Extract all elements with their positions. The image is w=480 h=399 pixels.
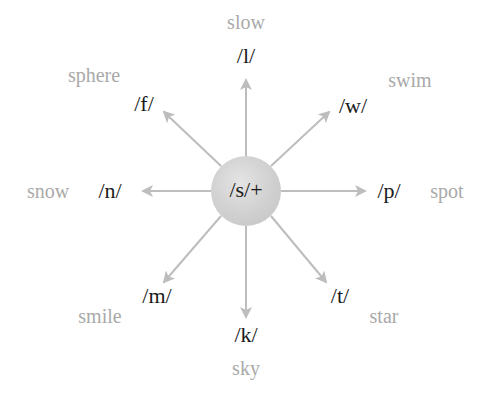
phoneme-n: /n/ bbox=[98, 180, 121, 202]
phoneme-m: /m/ bbox=[142, 285, 171, 307]
word-star: star bbox=[370, 306, 399, 326]
word-spot: spot bbox=[430, 181, 463, 201]
center-label: /s/+ bbox=[229, 177, 262, 203]
arrow-southeast bbox=[271, 216, 326, 282]
phoneme-k: /k/ bbox=[234, 324, 257, 346]
word-slow: slow bbox=[227, 12, 265, 32]
center-hub: /s/+ bbox=[211, 156, 281, 226]
word-swim: swim bbox=[388, 70, 431, 90]
arrow-southwest bbox=[164, 216, 221, 282]
phoneme-w: /w/ bbox=[339, 95, 367, 117]
word-snow: snow bbox=[27, 181, 69, 201]
word-smile: smile bbox=[78, 306, 121, 326]
phoneme-p: /p/ bbox=[377, 180, 400, 202]
word-sphere: sphere bbox=[68, 65, 120, 85]
word-sky: sky bbox=[232, 358, 260, 378]
s-blend-diagram: /s/+ slow /l/ swim /w/ /p/ spot /t/ star… bbox=[0, 0, 480, 399]
arrow-northwest bbox=[164, 112, 221, 166]
phoneme-f: /f/ bbox=[134, 93, 154, 115]
phoneme-t: /t/ bbox=[331, 285, 349, 307]
phoneme-l: /l/ bbox=[237, 45, 255, 67]
arrow-northeast bbox=[271, 112, 329, 166]
